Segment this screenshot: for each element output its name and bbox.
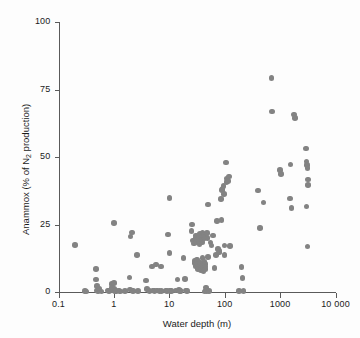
scatter-plot-figure: 0255075100 0.1110100100010 000 Water dep… [0,0,360,338]
y-axis-title-post: production) [20,104,31,154]
data-point [99,289,105,295]
x-tick-label: 1 [84,299,144,309]
x-tick-label: 10 000 [306,299,360,309]
data-point [287,196,293,202]
data-point [210,233,216,239]
data-point [165,232,171,238]
x-tick-label: 100 [195,299,255,309]
data-point [222,252,228,258]
data-point [218,196,224,202]
data-point [278,171,284,177]
y-axis-title-pre: Anammox (% of N [20,158,31,235]
data-point [288,162,294,168]
data-point [212,265,218,271]
data-point [175,277,181,283]
data-point [111,280,117,286]
data-point [93,266,99,272]
data-point [269,109,275,115]
data-point [127,275,133,281]
data-point [189,222,195,228]
data-point [184,288,190,294]
y-tick-mark [55,225,60,226]
data-point [257,225,263,231]
data-point [289,205,295,211]
data-point [261,200,267,206]
y-axis-title-subscript: 2 [25,154,32,158]
data-point [129,230,135,236]
y-tick-mark [55,157,60,158]
data-point [240,275,246,281]
x-tick-label: 0.1 [29,299,89,309]
y-tick-label: 75 [11,84,51,94]
x-tick-mark [280,293,281,298]
data-point [255,188,261,194]
y-axis-title: Anammox (% of N2 production) [20,104,31,235]
data-point [158,264,164,270]
data-point [167,250,173,256]
data-point [221,191,227,197]
y-tick-label: 0 [11,286,51,296]
data-point [203,266,209,272]
data-point [304,204,310,210]
data-point [205,202,211,208]
x-axis-title: Water depth (m) [137,318,257,329]
y-tick-mark [55,90,60,91]
data-point [305,182,311,188]
y-tick-label: 100 [11,16,51,26]
data-point [305,165,311,171]
data-point [84,289,90,295]
data-point [305,244,311,250]
data-point [303,146,309,152]
y-tick-mark [55,22,60,23]
data-point [227,243,233,249]
data-point [167,195,173,201]
data-point [135,288,141,294]
data-point [93,277,99,283]
data-point [236,288,242,294]
data-point [205,254,211,260]
x-tick-label: 10 [139,299,199,309]
x-tick-mark [59,293,60,298]
data-point [223,160,229,166]
data-point [182,276,188,282]
data-point [269,75,275,81]
x-tick-mark [336,293,337,298]
data-point [292,115,298,121]
data-point [72,242,78,248]
data-point [239,264,245,270]
x-tick-mark [225,293,226,298]
x-tick-label: 1000 [250,299,310,309]
data-point [181,255,187,261]
data-point [226,174,232,180]
data-point [134,252,140,258]
data-point [111,220,117,226]
data-point [143,278,149,284]
data-point [219,217,225,223]
data-point [209,243,215,249]
